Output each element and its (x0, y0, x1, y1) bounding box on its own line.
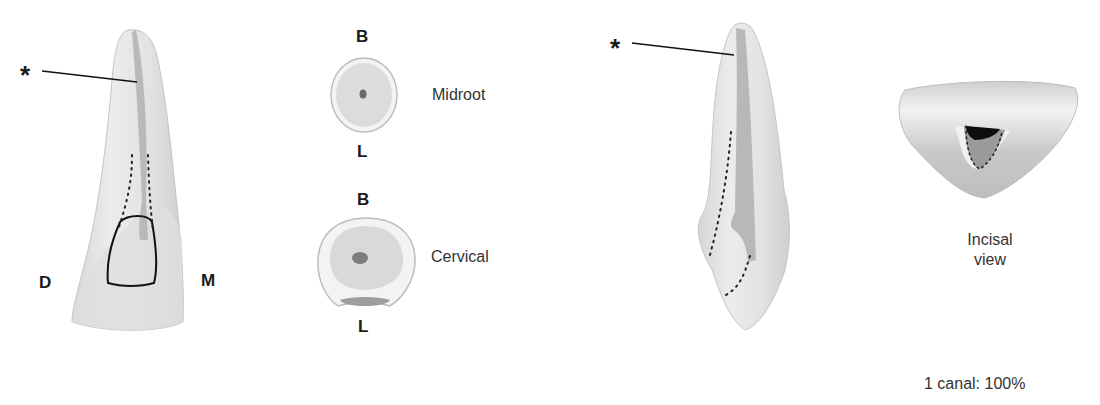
distal-label: D (39, 273, 51, 293)
cervical-cross-section (318, 218, 415, 306)
cervical-label: Cervical (431, 248, 489, 266)
tooth-diagram-canvas (0, 0, 1100, 405)
midroot-cross-section (331, 58, 397, 132)
labial-asterisk-marker: * (20, 60, 30, 91)
incisal-view-caption: Incisal view (940, 230, 1040, 270)
cervical-buccal-label: B (357, 190, 369, 210)
labial-tooth-illustration (42, 30, 183, 330)
proximal-tooth-illustration (632, 23, 789, 330)
canal-statistic: 1 canal: 100% (924, 375, 1025, 393)
midroot-buccal-label: B (356, 27, 368, 47)
midroot-label: Midroot (432, 86, 485, 104)
incisal-caption-line2: view (940, 250, 1040, 270)
proximal-asterisk-marker: * (610, 33, 620, 64)
cervical-lingual-label: L (358, 317, 368, 337)
midroot-lingual-label: L (357, 142, 367, 162)
incisal-caption-line1: Incisal (940, 230, 1040, 250)
mesial-label: M (201, 271, 215, 291)
incisal-view-illustration (899, 81, 1078, 198)
